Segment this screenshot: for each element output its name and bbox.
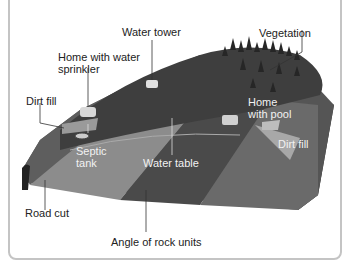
water-tower-icon — [146, 80, 158, 88]
label-home-sprinkler-1: Home with water — [58, 51, 140, 63]
label-water-tower: Water tower — [122, 26, 181, 38]
label-home-pool-1: Home — [248, 96, 277, 108]
label-vegetation: Vegetation — [259, 27, 311, 39]
label-road-cut: Road cut — [25, 207, 69, 219]
label-angle-rock-units: Angle of rock units — [111, 236, 202, 248]
home-sprinkler-icon — [80, 107, 96, 117]
home-pool-icon — [222, 115, 238, 125]
road-cut-icon — [22, 164, 30, 190]
label-septic-2: tank — [76, 157, 97, 169]
label-water-table: Water table — [143, 157, 199, 169]
label-home-pool-2: with pool — [248, 108, 291, 120]
label-home-sprinkler-2: sprinkler — [58, 63, 100, 75]
septic-tank-icon — [75, 133, 89, 139]
landscape-block-diagram — [0, 0, 351, 268]
label-septic-1: Septic — [76, 145, 107, 157]
label-dirt-fill-right: Dirt fill — [278, 138, 309, 150]
label-dirt-fill-left: Dirt fill — [26, 95, 57, 107]
